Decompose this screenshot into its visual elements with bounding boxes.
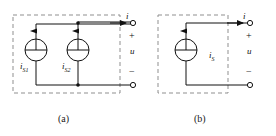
circuit-figure: iS1 iS2 i + u − (a) iS i + u − (b)	[0, 0, 276, 136]
circuit-drawing	[0, 0, 276, 136]
terminal-negative-a	[130, 82, 135, 87]
junction-bottom-a	[76, 83, 80, 87]
current-source-2-a	[67, 31, 89, 61]
current-label-b: i	[243, 11, 246, 21]
voltage-label-a: u	[130, 46, 135, 56]
current-source-1-b	[175, 31, 197, 61]
source-label-is1: iS1	[20, 61, 29, 73]
plus-sign-b: +	[246, 30, 252, 41]
junction-top-a	[76, 21, 80, 25]
minus-sign-a: −	[129, 66, 135, 77]
source-label-is2: iS2	[62, 61, 71, 73]
minus-sign-b: −	[246, 66, 252, 77]
current-source-1-a	[25, 31, 47, 61]
source-label-is: iS	[209, 50, 215, 62]
voltage-label-b: u	[247, 46, 252, 56]
caption-b: (b)	[194, 113, 206, 124]
current-label-a: i	[126, 11, 129, 21]
caption-a: (a)	[58, 113, 69, 124]
terminal-negative-b	[247, 82, 252, 87]
terminal-positive-b	[247, 20, 252, 25]
circuit-a	[13, 15, 136, 93]
plus-sign-a: +	[129, 30, 135, 41]
circuit-b	[158, 15, 253, 93]
terminal-positive-a	[130, 20, 135, 25]
